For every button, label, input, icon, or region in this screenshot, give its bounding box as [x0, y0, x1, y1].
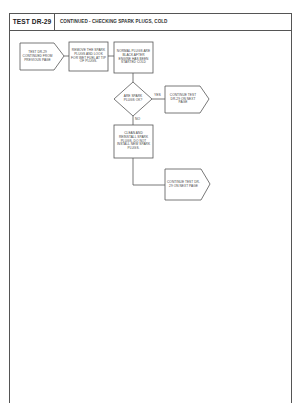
start-node-label: TEST DR-29 CONTINUED FROM PREVIOUS PAGE [21, 44, 54, 70]
normal-plugs-node-label: NORMAL PLUGS ARE BLACK AFTER ENGINE HAS … [115, 43, 152, 72]
remove-plugs-node-label: REMOVE THE SPARK PLUGS AND LOOK FOR WET … [70, 43, 107, 70]
decision-node-label: ARE SPARK PLUGS OK? [121, 92, 145, 106]
yes-label: YES [154, 93, 161, 97]
no-label: NO [135, 117, 140, 121]
continue-yes-node-label: CONTINUE TEST DR-29 ON NEXT PAGE [166, 88, 200, 111]
continue-no-node-label: CONTINUE TEST DR-29 ON NEXT PAGE [166, 171, 201, 198]
clean-reinstall-node-label: CLEAN AND REINSTALL SPARK PLUGS. DO NOT … [115, 126, 152, 157]
edge-clean-to-continue [133, 158, 165, 185]
